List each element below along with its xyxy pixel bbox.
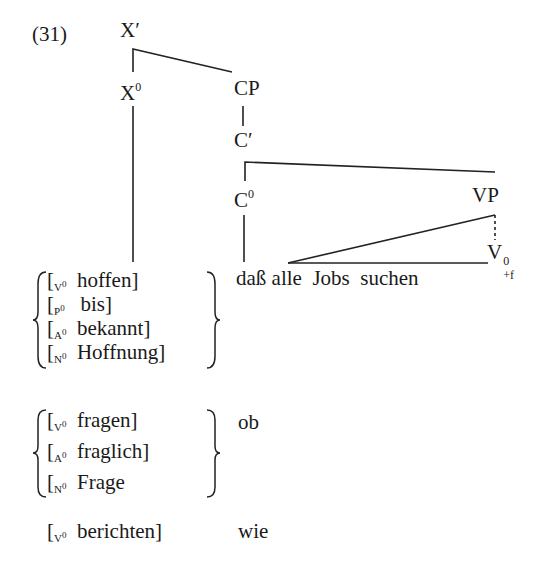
group2-item-a0-fraglich: [A0 fraglich] <box>47 441 149 466</box>
group1-item-n0-hoffnung: [N0 Hoffnung] <box>47 342 165 367</box>
group2-item-n0-frage: [N0 Frage <box>47 472 125 497</box>
group3-item-v0-berichten: [V0 berichten] <box>47 521 162 546</box>
group2-item-v0-fragen: [V0 fragen] <box>47 410 138 435</box>
complementizer-ob: ob <box>238 412 259 433</box>
complementizer-wie: wie <box>238 521 268 542</box>
